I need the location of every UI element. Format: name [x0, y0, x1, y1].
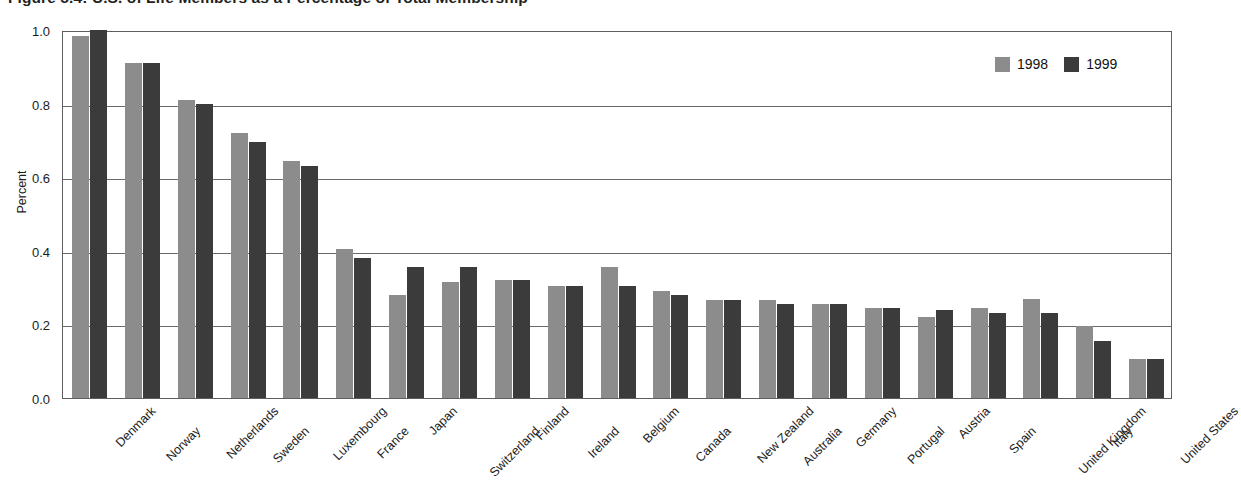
x-tick-label: Canada: [693, 424, 734, 465]
x-tick-label: Spain: [1006, 424, 1039, 457]
bar: [389, 295, 406, 398]
bar: [354, 258, 371, 398]
bar-group: [918, 32, 953, 398]
x-tick-label: Japan: [426, 404, 460, 438]
bar: [336, 249, 353, 398]
x-tick-label: Finland: [533, 404, 572, 443]
y-tick-label: 1.0: [32, 24, 50, 39]
bar: [601, 267, 618, 398]
x-tick-label: Denmark: [113, 404, 159, 450]
bar-group: [601, 32, 636, 398]
x-tick-label: Germany: [853, 404, 899, 450]
x-axis-tick-labels: DenmarkNorwayNetherlandsSwedenLuxembourg…: [62, 402, 1172, 502]
legend-swatch: [1064, 57, 1079, 72]
bars-layer: [63, 32, 1171, 398]
legend-item: 1999: [1064, 56, 1117, 72]
bar: [724, 300, 741, 398]
y-tick-label: 0.4: [32, 244, 50, 259]
bar: [143, 63, 160, 398]
y-axis-tick-labels: 1.00.80.60.40.20.0: [0, 31, 56, 399]
bar: [1041, 313, 1058, 398]
bar-group: [283, 32, 318, 398]
bar-group: [1023, 32, 1058, 398]
legend-swatch: [995, 57, 1010, 72]
bar: [566, 286, 583, 398]
bar: [1147, 359, 1164, 398]
bar-group: [336, 32, 371, 398]
y-tick-label: 0.0: [32, 392, 50, 407]
bar: [125, 63, 142, 398]
bar: [1129, 359, 1146, 398]
x-tick-label: Sweden: [270, 424, 312, 466]
bar-group: [865, 32, 900, 398]
bar: [653, 291, 670, 398]
bar-group: [759, 32, 794, 398]
bar: [442, 282, 459, 398]
bar: [72, 36, 89, 398]
bar: [671, 295, 688, 398]
bar-group: [389, 32, 424, 398]
bar: [812, 304, 829, 398]
bar-group: [495, 32, 530, 398]
bar-group: [548, 32, 583, 398]
bar: [460, 267, 477, 398]
x-tick-label: Belgium: [640, 404, 682, 446]
bar: [918, 317, 935, 398]
x-tick-label: United States: [1178, 404, 1241, 467]
x-tick-label: Austria: [956, 404, 993, 441]
bar: [231, 133, 248, 398]
bar: [1023, 299, 1040, 398]
bar: [1094, 341, 1111, 398]
bar: [301, 166, 318, 398]
x-tick-label: Ireland: [585, 424, 622, 461]
bar: [619, 286, 636, 398]
legend-label: 1998: [1017, 56, 1048, 72]
bar: [90, 30, 107, 398]
bar-group: [72, 32, 107, 398]
bar-group: [178, 32, 213, 398]
bar-group: [125, 32, 160, 398]
bar: [883, 308, 900, 398]
bar: [865, 308, 882, 398]
bar: [1076, 326, 1093, 398]
bar: [249, 142, 266, 398]
bar-group: [1076, 32, 1111, 398]
bar-group: [231, 32, 266, 398]
bar: [283, 161, 300, 398]
bar: [830, 304, 847, 398]
legend: 19981999: [995, 56, 1117, 72]
plot-area: [62, 31, 1172, 399]
bar: [178, 100, 195, 398]
bar: [513, 280, 530, 398]
bar-group: [971, 32, 1006, 398]
bar: [495, 280, 512, 398]
y-tick-label: 0.6: [32, 171, 50, 186]
bar: [407, 267, 424, 398]
legend-item: 1998: [995, 56, 1048, 72]
bar-group: [442, 32, 477, 398]
bar: [196, 104, 213, 398]
bar-group: [1129, 32, 1164, 398]
bar-group: [812, 32, 847, 398]
bar: [971, 308, 988, 398]
bar: [706, 300, 723, 398]
bar-group: [653, 32, 688, 398]
y-tick-label: 0.8: [32, 97, 50, 112]
bar: [989, 313, 1006, 398]
bar: [936, 310, 953, 398]
legend-label: 1999: [1086, 56, 1117, 72]
bar-group: [706, 32, 741, 398]
x-tick-label: Australia: [800, 424, 844, 468]
y-tick-label: 0.2: [32, 318, 50, 333]
x-tick-label: Portugal: [905, 424, 948, 467]
x-tick-label: Norway: [164, 424, 204, 464]
bar: [777, 304, 794, 398]
x-tick-label: France: [374, 424, 411, 461]
bar: [759, 300, 776, 398]
bar: [548, 286, 565, 398]
